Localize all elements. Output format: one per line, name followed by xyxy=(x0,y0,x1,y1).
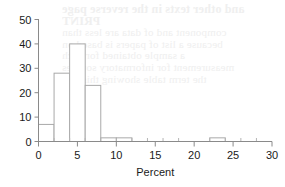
y-axis-ticks xyxy=(35,20,39,142)
x-axis-ticks xyxy=(39,142,273,147)
y-axis-tick-label: 20 xyxy=(19,87,31,99)
x-axis-tick-label: 15 xyxy=(149,149,161,161)
histogram-bar xyxy=(70,44,86,142)
histogram-bar xyxy=(210,138,226,142)
histogram-bar xyxy=(54,73,70,141)
y-axis-tick-label: 10 xyxy=(19,111,31,123)
x-axis-tick-label: 10 xyxy=(110,149,122,161)
x-axis-tick-label: 25 xyxy=(227,149,239,161)
x-axis-tick-labels: 051015202530 xyxy=(35,149,278,161)
chart-canvas: 01020304050 051015202530 Percent xyxy=(0,0,285,187)
x-axis-tick-label: 0 xyxy=(35,149,41,161)
y-axis-tick-label: 50 xyxy=(19,14,31,26)
histogram-bar xyxy=(39,124,55,141)
y-axis-tick-label: 30 xyxy=(19,62,31,74)
histogram-chart: and other texts in the reverse page PRIN… xyxy=(0,0,285,187)
x-axis-title: Percent xyxy=(136,166,174,178)
histogram-bar xyxy=(85,85,101,141)
histogram-bar xyxy=(101,138,117,142)
x-axis-tick-label: 5 xyxy=(74,149,80,161)
y-axis-tick-labels: 01020304050 xyxy=(19,14,31,148)
bars-group xyxy=(39,44,226,142)
x-axis-tick-label: 30 xyxy=(266,149,278,161)
x-axis-tick-label: 20 xyxy=(188,149,200,161)
histogram-bar xyxy=(116,138,132,142)
y-axis-tick-label: 0 xyxy=(25,136,31,148)
y-axis-tick-label: 40 xyxy=(19,38,31,50)
